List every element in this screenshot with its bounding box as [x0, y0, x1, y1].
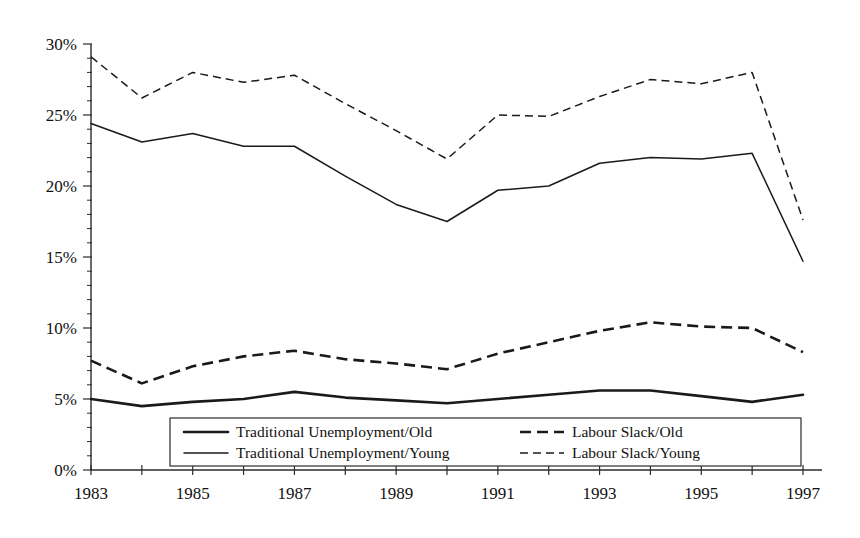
x-tick-label: 1997: [786, 484, 821, 503]
series-line-traditional-unemployment-old: [91, 390, 803, 406]
chart-legend: Traditional Unemployment/OldLabour Slack…: [170, 418, 801, 466]
y-tick-label: 25%: [46, 106, 77, 125]
x-tick-label: 1989: [379, 484, 413, 503]
x-tick-label: 1993: [583, 484, 617, 503]
chart-container: 0%5%10%15%20%25%30% 19831985198719891991…: [0, 0, 860, 538]
x-tick-label: 1987: [277, 484, 312, 503]
line-chart-figure: 0%5%10%15%20%25%30% 19831985198719891991…: [0, 0, 860, 538]
series-line-labour-slack-old: [91, 322, 803, 383]
series-group: [91, 57, 803, 406]
x-axis-tick-labels: 19831985198719891991199319951997: [74, 484, 821, 503]
series-line-traditional-unemployment-young: [91, 124, 803, 262]
legend-label: Traditional Unemployment/Young: [236, 444, 450, 461]
legend-label: Traditional Unemployment/Old: [236, 423, 432, 440]
y-tick-label: 30%: [46, 35, 77, 54]
y-tick-label: 10%: [46, 319, 77, 338]
legend-label: Labour Slack/Young: [572, 444, 700, 461]
y-tick-label: 5%: [54, 390, 77, 409]
y-tick-label: 0%: [54, 461, 77, 480]
x-tick-label: 1991: [481, 484, 515, 503]
y-tick-label: 20%: [46, 177, 77, 196]
x-tick-label: 1985: [176, 484, 210, 503]
x-tick-label: 1983: [74, 484, 108, 503]
axes: [91, 44, 822, 470]
legend-label: Labour Slack/Old: [572, 423, 683, 440]
series-line-labour-slack-young: [91, 57, 803, 220]
y-axis-tick-labels: 0%5%10%15%20%25%30%: [46, 35, 77, 480]
x-tick-label: 1995: [684, 484, 718, 503]
y-tick-label: 15%: [46, 248, 77, 267]
